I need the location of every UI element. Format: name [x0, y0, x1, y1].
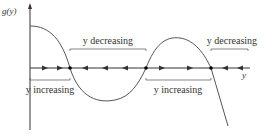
flow-arrow-left — [237, 66, 243, 71]
bracket-decreasing-right — [211, 49, 248, 51]
y-axis-label: g(y) — [2, 6, 17, 16]
flow-arrow-left — [82, 66, 88, 71]
y-axis-arrowhead — [28, 3, 32, 9]
bracket-increasing-left — [30, 78, 70, 80]
label-increasing-left: y increasing — [26, 84, 75, 95]
label-decreasing-left: y decreasing — [83, 35, 133, 46]
label-increasing-right: y increasing — [154, 84, 203, 95]
flow-arrow-right — [187, 66, 193, 71]
equilibrium-point-3 — [209, 66, 213, 70]
equilibrium-point-2 — [144, 66, 148, 70]
x-axis-label: y — [241, 70, 246, 80]
bracket-decreasing-left — [70, 49, 146, 51]
flow-arrow-left — [122, 66, 128, 71]
flow-arrow-right — [42, 66, 48, 71]
bracket-increasing-right — [146, 78, 211, 80]
equilibrium-point-1 — [68, 66, 72, 70]
flow-arrow-left — [222, 66, 228, 71]
flow-arrow-right — [57, 66, 63, 71]
phase-line-diagram: g(y) y y decreasing y decreasing y incre… — [0, 0, 266, 136]
label-decreasing-right: y decreasing — [207, 35, 257, 46]
flow-arrow-left — [102, 66, 108, 71]
flow-arrow-right — [159, 66, 165, 71]
